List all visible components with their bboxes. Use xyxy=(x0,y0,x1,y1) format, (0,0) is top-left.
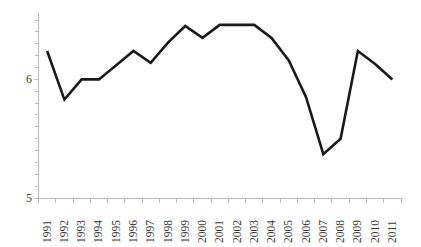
line-chart: 65 1991199219931994199519961997199819992… xyxy=(0,0,421,247)
y-axis-tick-label: 6 xyxy=(14,73,32,85)
y-axis xyxy=(34,13,39,198)
y-axis-tick-label: 5 xyxy=(14,192,32,204)
data-series-line xyxy=(47,25,392,154)
chart-plot-area xyxy=(0,0,421,247)
x-axis xyxy=(39,198,402,203)
y-axis-ticks xyxy=(34,20,39,198)
